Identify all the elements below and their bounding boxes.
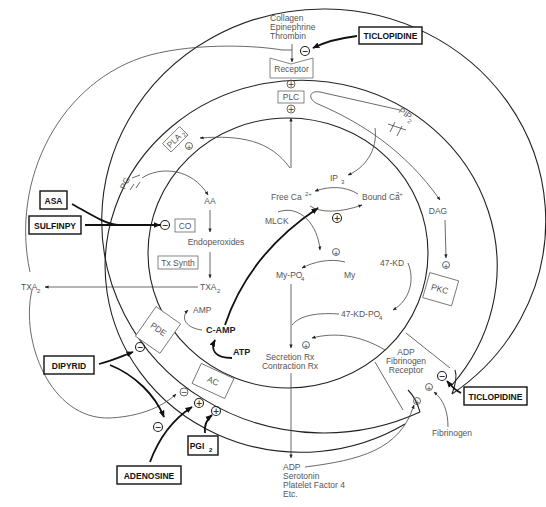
my-label: My	[344, 270, 356, 280]
endoperoxides-label: Endoperoxides	[188, 237, 245, 247]
plus-icon: +	[288, 80, 295, 89]
released-etc: Etc.	[283, 489, 298, 499]
my-po4-subscript: 4	[301, 276, 305, 282]
txa2-inner-subscript: 2	[217, 288, 221, 294]
txa2-outer-label: TXA	[21, 282, 38, 292]
minus-icon: −	[155, 423, 162, 432]
minus-icon: −	[439, 372, 446, 381]
camp-label: C-AMP	[206, 325, 236, 335]
receptor-label: Receptor	[274, 64, 309, 74]
dipyrid-label: DIPYRID	[52, 361, 86, 371]
outer-membrane-notch	[408, 370, 456, 412]
amp-label: AMP	[193, 305, 212, 315]
free-ca-superscript: 2+	[305, 191, 312, 197]
ticlopidine-top-label: TICLOPIDINE	[364, 31, 418, 41]
txa2-outer-subscript: 2	[37, 288, 41, 294]
inner-membrane	[148, 118, 428, 388]
plus-icon: +	[288, 105, 295, 114]
plus-icon: +	[186, 143, 191, 150]
pg-label: PG	[118, 175, 132, 190]
my-po4-label: My-PO	[276, 270, 303, 280]
mlck-label: MLCK	[265, 216, 289, 226]
bound-ca-superscript: 2+	[396, 191, 403, 197]
txa2-inner-label: TXA	[200, 282, 217, 292]
plus-icon: +	[196, 399, 203, 408]
47kd-po4-label: 47-KD-PO	[341, 309, 381, 319]
tx-synth-label: Tx Synth	[161, 258, 195, 268]
sulfinpy-label: SULFINPY	[34, 221, 76, 231]
plus-icon: +	[443, 262, 448, 269]
ip3-label: IP	[330, 173, 338, 183]
free-ca-label: Free Ca	[271, 192, 302, 202]
bound-ca-label: Bound Ca	[362, 192, 400, 202]
receptor-label-2: Receptor	[389, 365, 424, 375]
plus-icon: +	[303, 342, 308, 349]
ticlopidine-bottom-label: TICLOPIDINE	[469, 392, 523, 402]
minus-icon: −	[162, 221, 169, 230]
co-label: CO	[179, 221, 192, 231]
47kd-label: 47-KD	[380, 258, 404, 268]
pip2-loop	[311, 92, 440, 200]
aa-label: AA	[204, 196, 216, 206]
agonist-thrombin: Thrombin	[270, 31, 306, 41]
adenosine-label: ADENOSINE	[124, 471, 175, 481]
minus-icon: −	[181, 388, 188, 397]
minus-icon: −	[302, 47, 309, 56]
47kd-po4-subscript: 4	[379, 315, 383, 321]
pgi2-label: PGI	[190, 441, 205, 451]
plc-label: PLC	[283, 92, 300, 102]
ip3-subscript: 3	[341, 179, 345, 185]
plus-icon: +	[334, 214, 341, 223]
dag-label: DAG	[429, 206, 447, 216]
atp-label: ATP	[233, 347, 250, 357]
plus-icon: +	[333, 249, 338, 256]
plus-icon: +	[213, 407, 220, 416]
minus-icon: −	[137, 343, 144, 352]
asa-label: ASA	[45, 196, 63, 206]
plus-icon: +	[414, 398, 419, 405]
plus-icon: +	[426, 384, 431, 391]
contraction-label: Contraction Rx	[262, 361, 319, 371]
fibrinogen-label: Fibrinogen	[432, 428, 472, 438]
platelet-pathway-diagram: Receptor + PLC + PIP 2 DAG + PKC PLA 2 +…	[0, 0, 546, 507]
